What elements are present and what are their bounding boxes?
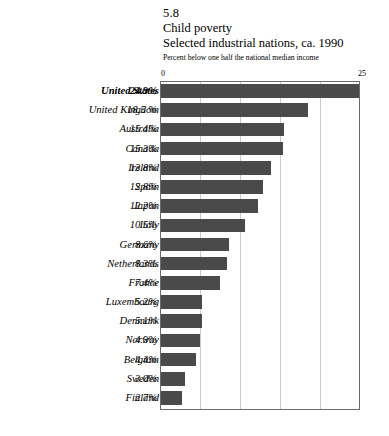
x-axis-tick-max: 25 bbox=[358, 69, 366, 79]
bar-row-value: 15.3% bbox=[117, 142, 157, 155]
bar bbox=[161, 123, 284, 137]
bar bbox=[161, 84, 359, 98]
bar-track bbox=[161, 331, 360, 350]
bar bbox=[161, 103, 308, 117]
bar bbox=[161, 161, 271, 175]
bar-row: Norway4.9% bbox=[0, 331, 389, 350]
bar-track bbox=[161, 197, 360, 216]
bar-row-value: 4.4% bbox=[117, 353, 157, 366]
bar-row-value: 8.6% bbox=[117, 238, 157, 251]
bar-row: Spain12.8% bbox=[0, 178, 389, 197]
bar-track bbox=[161, 82, 360, 101]
figure-header: 5.8 Child poverty Selected industrial na… bbox=[163, 6, 385, 63]
bar-track bbox=[161, 389, 360, 408]
bar-row: United States24.9% bbox=[0, 82, 389, 101]
bar-track bbox=[161, 140, 360, 159]
bar-row: Germany8.6% bbox=[0, 236, 389, 255]
bar-row-value: 2.7% bbox=[117, 391, 157, 404]
bar-row-value: 13.8% bbox=[117, 161, 157, 174]
bar-rows: United States24.9%United Kingdom18.5 %Au… bbox=[0, 82, 389, 408]
bar-row-value: 24.9% bbox=[117, 84, 157, 97]
figure-title: Child poverty bbox=[163, 21, 385, 36]
bar-row-value: 5.2% bbox=[117, 295, 157, 308]
bar-row: United Kingdom18.5 % bbox=[0, 101, 389, 120]
bar bbox=[161, 372, 185, 386]
bar bbox=[161, 295, 202, 309]
bar bbox=[161, 314, 202, 328]
bar bbox=[161, 334, 200, 348]
figure-subtitle: Selected industrial nations, ca. 1990 bbox=[163, 36, 385, 51]
bar-row: Ireland13.8% bbox=[0, 159, 389, 178]
chart-figure: 5.8 Child poverty Selected industrial na… bbox=[0, 0, 389, 436]
x-axis-tick-labels: 0 25 bbox=[161, 69, 360, 81]
bar-row: Australia15.4% bbox=[0, 120, 389, 139]
bar-row: Italy10.5% bbox=[0, 216, 389, 235]
bar-row: Finland2.7% bbox=[0, 389, 389, 408]
bar bbox=[161, 180, 263, 194]
bar-row-value: 12.8% bbox=[117, 180, 157, 193]
bar-track bbox=[161, 101, 360, 120]
bar bbox=[161, 199, 258, 213]
bar-track bbox=[161, 351, 360, 370]
bar-track bbox=[161, 312, 360, 331]
bar-track bbox=[161, 255, 360, 274]
bar-row-value: 5.1% bbox=[117, 314, 157, 327]
bar bbox=[161, 142, 283, 156]
bar bbox=[161, 276, 220, 290]
bar-row-value: 7.4% bbox=[117, 276, 157, 289]
bar bbox=[161, 219, 245, 233]
bar-row-value: 10.5% bbox=[117, 218, 157, 231]
figure-number: 5.8 bbox=[163, 6, 385, 21]
bar-track bbox=[161, 159, 360, 178]
bar-track bbox=[161, 120, 360, 139]
bar-row: Sweden3.0% bbox=[0, 370, 389, 389]
bar-track bbox=[161, 274, 360, 293]
bar-row: Belgium4.4% bbox=[0, 351, 389, 370]
bar-track bbox=[161, 236, 360, 255]
bar-row-value: 4.9% bbox=[117, 333, 157, 346]
bar-track bbox=[161, 293, 360, 312]
bar-row: Denmark5.1% bbox=[0, 312, 389, 331]
bar bbox=[161, 238, 229, 252]
bar-row: France7.4% bbox=[0, 274, 389, 293]
bar-row-value: 8.3% bbox=[117, 257, 157, 270]
bar-row-value: 18.5 % bbox=[117, 103, 157, 116]
bar-row: Luxembourg5.2% bbox=[0, 293, 389, 312]
bar bbox=[161, 391, 182, 405]
bar-track bbox=[161, 370, 360, 389]
bar-row: Japan12.2% bbox=[0, 197, 389, 216]
x-axis-tick-min: 0 bbox=[161, 69, 165, 79]
bar-row: Canada15.3% bbox=[0, 140, 389, 159]
bar bbox=[161, 257, 227, 271]
figure-axis-note: Percent below one half the national medi… bbox=[163, 52, 385, 63]
bar-row-value: 3.0% bbox=[117, 372, 157, 385]
bar-row-value: 15.4% bbox=[117, 122, 157, 135]
bar-row-value: 12.2% bbox=[117, 199, 157, 212]
bar-track bbox=[161, 178, 360, 197]
bar-track bbox=[161, 216, 360, 235]
bar bbox=[161, 353, 196, 367]
bar-row: Netherlands8.3% bbox=[0, 255, 389, 274]
